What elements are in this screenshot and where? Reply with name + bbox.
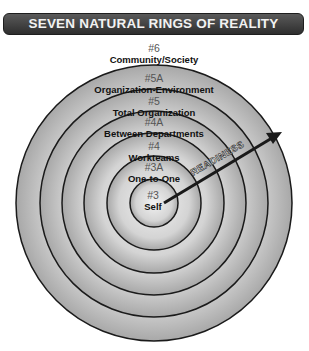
- ring-3a-label: One-to-One: [128, 173, 180, 184]
- ring-4-number: #4: [148, 140, 160, 152]
- ring-6-label: Community/Society: [110, 54, 199, 65]
- ring-5a-number: #5A: [145, 72, 164, 84]
- ring-5-number: #5: [148, 95, 160, 107]
- ring-3a-number: #3A: [145, 161, 164, 173]
- ring-5a-label: Organization-Environment: [94, 84, 214, 95]
- concentric-rings-diagram: #6 Community/Society #5A Organization-En…: [0, 0, 309, 351]
- ring-4a-label: Between Departments: [104, 128, 204, 139]
- ring-3-number: #3: [147, 189, 159, 201]
- ring-6-number: #6: [148, 42, 160, 54]
- ring-4a-number: #4A: [145, 116, 164, 128]
- ring-3-label: Self: [144, 201, 162, 212]
